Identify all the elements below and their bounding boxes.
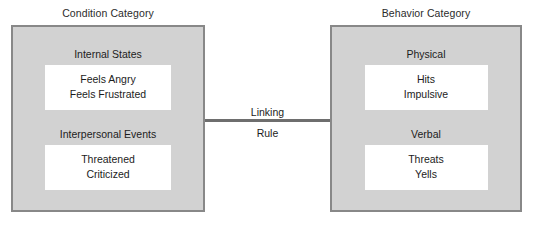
behavior-category-title: Behavior Category	[330, 7, 522, 19]
item-line: Criticized	[45, 167, 171, 182]
item-box-interpersonal-events: Threatened Criticized	[45, 145, 171, 190]
item-line: Threats	[365, 152, 488, 167]
group-heading-physical: Physical	[332, 48, 520, 60]
item-box-internal-states: Feels Angry Feels Frustrated	[45, 65, 171, 110]
linking-rule-connector-line	[205, 119, 330, 122]
group-verbal: Verbal Threats Yells	[332, 128, 520, 190]
item-line: Feels Frustrated	[45, 87, 171, 102]
linking-rule-label-top: Linking	[205, 106, 330, 118]
behavior-category-panel: Physical Hits Impulsive Verbal Threats Y…	[330, 25, 522, 212]
item-box-physical: Hits Impulsive	[365, 65, 488, 110]
linking-rule-label-bottom: Rule	[205, 127, 330, 139]
group-internal-states: Internal States Feels Angry Feels Frustr…	[13, 48, 203, 110]
group-physical: Physical Hits Impulsive	[332, 48, 520, 110]
group-heading-interpersonal-events: Interpersonal Events	[13, 128, 203, 140]
item-line: Impulsive	[365, 87, 488, 102]
group-heading-internal-states: Internal States	[13, 48, 203, 60]
item-line: Yells	[365, 167, 488, 182]
item-line: Hits	[365, 72, 488, 87]
group-heading-verbal: Verbal	[332, 128, 520, 140]
item-box-verbal: Threats Yells	[365, 145, 488, 190]
condition-category-panel: Internal States Feels Angry Feels Frustr…	[11, 25, 205, 212]
item-line: Threatened	[45, 152, 171, 167]
item-line: Feels Angry	[45, 72, 171, 87]
condition-category-title: Condition Category	[11, 7, 205, 19]
diagram-canvas: Condition Category Behavior Category Int…	[0, 0, 533, 229]
group-interpersonal-events: Interpersonal Events Threatened Criticiz…	[13, 128, 203, 190]
